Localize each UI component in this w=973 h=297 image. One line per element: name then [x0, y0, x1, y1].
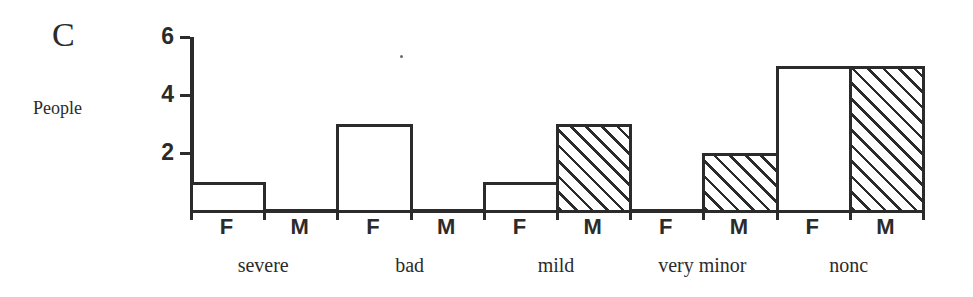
category-label-very-minor: very minor	[629, 255, 775, 275]
scan-speck	[400, 55, 403, 58]
bar-bad-f	[336, 124, 412, 213]
bar-nonc-f	[776, 66, 852, 213]
category-label-nonc: nonc	[776, 255, 922, 275]
sex-label-f: F	[483, 216, 556, 238]
category-label-bad: bad	[336, 255, 482, 275]
category-label-mild: mild	[483, 255, 629, 275]
bar-nonc-m	[849, 66, 925, 213]
sex-label-f: F	[629, 216, 702, 238]
y-axis-tick-label: 4	[148, 83, 174, 106]
sex-label-m: M	[702, 216, 775, 238]
sex-label-f: F	[336, 216, 409, 238]
category-label-severe: severe	[190, 255, 336, 275]
chart-figure: C People 246 FMFMFMFMFM severebadmildver…	[0, 0, 973, 297]
y-axis-tick	[180, 94, 190, 97]
bar-mild-m	[556, 124, 632, 213]
sex-label-m: M	[556, 216, 629, 238]
bar-mild-f	[483, 182, 559, 213]
bar-severe-f	[190, 182, 266, 213]
bar-very-minor-m	[702, 153, 778, 213]
sex-label-m: M	[849, 216, 922, 238]
y-axis-tick	[180, 36, 190, 39]
sex-label-f: F	[776, 216, 849, 238]
y-axis-title: People	[33, 99, 82, 117]
sex-label-m: M	[410, 216, 483, 238]
sex-label-m: M	[263, 216, 336, 238]
panel-letter: C	[52, 18, 75, 52]
sex-label-f: F	[190, 216, 263, 238]
y-axis-tick-label: 6	[148, 25, 174, 48]
y-axis-tick	[180, 152, 190, 155]
y-axis-tick-label: 2	[148, 141, 174, 164]
